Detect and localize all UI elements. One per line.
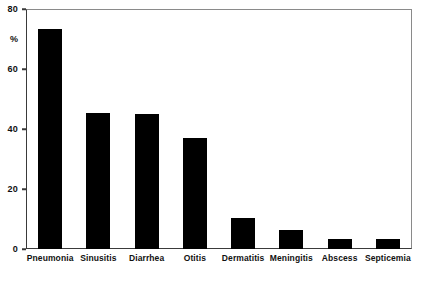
- x-axis-category-label: Diarrhea: [129, 253, 164, 263]
- y-axis: 020406080%: [0, 0, 26, 284]
- x-axis-category-label: Meningitis: [270, 253, 313, 263]
- x-axis-category-label: Otitis: [184, 253, 206, 263]
- bar-fill: [231, 218, 255, 250]
- bar-fill: [328, 239, 352, 250]
- x-axis-category-label: Septicemia: [365, 253, 411, 263]
- bars-layer: [26, 9, 412, 249]
- bar: [279, 9, 303, 249]
- x-axis-category-label: Pneumonia: [27, 253, 74, 263]
- y-axis-tick-label: 40: [8, 124, 18, 134]
- y-axis-unit-label: %: [10, 34, 18, 44]
- bar-fill: [135, 114, 159, 249]
- bar: [86, 9, 110, 249]
- x-axis-category-label: Sinusitis: [80, 253, 116, 263]
- bar: [231, 9, 255, 249]
- y-axis-tick-label: 80: [8, 4, 18, 14]
- bar: [135, 9, 159, 249]
- bar: [38, 9, 62, 249]
- y-axis-tick-label: 0: [13, 244, 18, 254]
- bar-chart: 020406080% PneumoniaSinusitisDiarrheaOti…: [0, 0, 423, 284]
- y-axis-tick-label: 20: [8, 184, 18, 194]
- x-axis-category-label: Abscess: [322, 253, 358, 263]
- bar-fill: [183, 138, 207, 249]
- bar-fill: [38, 29, 62, 250]
- y-axis-tick-label: 60: [8, 64, 18, 74]
- bar-fill: [86, 113, 110, 250]
- x-axis-category-label: Dermatitis: [222, 253, 265, 263]
- bar: [183, 9, 207, 249]
- x-axis-labels: PneumoniaSinusitisDiarrheaOtitisDermatit…: [26, 253, 412, 277]
- bar: [376, 9, 400, 249]
- bar: [328, 9, 352, 249]
- bar-fill: [376, 239, 400, 250]
- bar-fill: [279, 230, 303, 250]
